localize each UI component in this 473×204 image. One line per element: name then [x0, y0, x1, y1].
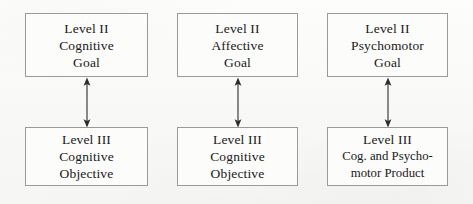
objective-box-cognitive-line-1: Level III [62, 131, 111, 148]
objective-box-psychomotor-line-2: Cog. and Psycho- [342, 148, 433, 165]
objective-box-cognitive[interactable]: Level III Cognitive Objective [25, 127, 148, 186]
goal-box-cognitive[interactable]: Level II Cognitive Goal [25, 13, 148, 77]
objective-box-psychomotor-line-3: motor Product [351, 165, 425, 182]
goal-box-psychomotor-line-3: Goal [374, 54, 401, 71]
objective-box-cognitive-line-2: Cognitive [59, 148, 114, 165]
connector-arrow-cognitive [79, 77, 95, 128]
objective-box-psychomotor-line-1: Level III [363, 131, 412, 148]
diagram-canvas: Level II Cognitive Goal Level III Cognit… [0, 0, 473, 204]
objective-box-cognitive-line-3: Objective [60, 165, 114, 182]
connector-arrow-psychomotor [380, 77, 396, 128]
goal-box-affective-line-2: Affective [211, 37, 263, 54]
goal-box-cognitive-line-3: Goal [73, 54, 100, 71]
goal-box-cognitive-line-1: Level II [64, 20, 108, 37]
connector-arrow-affective [230, 77, 246, 128]
goal-box-psychomotor-line-2: Psychomotor [351, 37, 424, 54]
goal-box-psychomotor[interactable]: Level II Psychomotor Goal [327, 13, 448, 77]
goal-box-affective-line-1: Level II [215, 20, 259, 37]
objective-box-psychomotor[interactable]: Level III Cog. and Psycho- motor Product [327, 127, 448, 186]
objective-box-affective-line-1: Level III [213, 131, 262, 148]
goal-box-affective-line-3: Goal [224, 54, 251, 71]
objective-box-affective-line-3: Objective [211, 165, 265, 182]
objective-box-affective-line-2: Cognitive [210, 148, 265, 165]
goal-box-affective[interactable]: Level II Affective Goal [177, 13, 298, 77]
goal-box-cognitive-line-2: Cognitive [59, 37, 114, 54]
objective-box-affective[interactable]: Level III Cognitive Objective [177, 127, 298, 186]
goal-box-psychomotor-line-1: Level II [365, 20, 409, 37]
